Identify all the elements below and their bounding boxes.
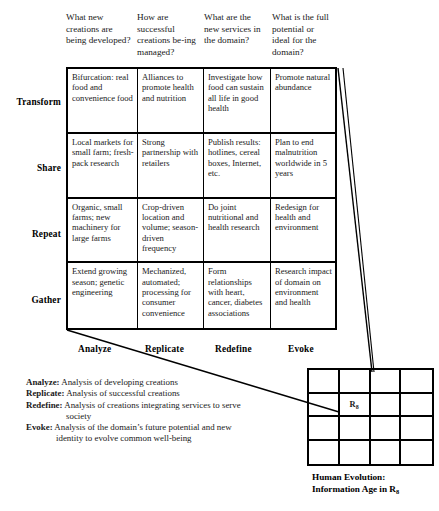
column-header-redefine: What are the new services in the domain? (204, 12, 272, 58)
legend-item-redefine: Redefine: Analysis of creations integrat… (26, 400, 304, 423)
legend-term-redefine: Redefine: (26, 400, 62, 410)
diagram-page: What new creations are being developed? … (0, 0, 439, 511)
small-grid-caption: Human Evolution: Information Age in R8 (312, 471, 439, 496)
small-grid-cell (401, 417, 432, 439)
matrix-cell: Do joint nutritional and health research (204, 199, 271, 262)
small-evolution-grid: R8 (307, 368, 434, 466)
table-row: Local markets for small farm; fresh-pack… (68, 134, 335, 199)
matrix-cell: Strong partnership with retailers (138, 134, 204, 197)
axis-label-redefine: Redefine (215, 344, 252, 354)
small-grid-cell (309, 370, 340, 392)
column-header-evoke: What is the full potential or ideal for … (272, 12, 338, 58)
legend-block: Analyze: Analysis of developing creation… (26, 377, 304, 445)
small-grid-cell (309, 417, 340, 439)
small-grid-cell (371, 370, 402, 392)
small-grid-row (309, 441, 432, 465)
row-label-share: Share (0, 163, 61, 173)
axis-label-analyze: Analyze (78, 344, 111, 354)
matrix-cell: Extend growing season; genetic engineeri… (68, 263, 138, 328)
matrix-cell: Local markets for small farm; fresh-pack… (68, 134, 138, 197)
small-grid-caption-line2: Information Age in R8 (312, 483, 439, 496)
small-grid-cell (401, 441, 432, 465)
small-grid-cell-marked: R8 (340, 394, 371, 416)
matrix-cell: Investigate how food can sustain all lif… (204, 69, 271, 132)
legend-text-evoke: Analysis of the domain’s future potentia… (54, 422, 231, 432)
small-grid-cell (371, 394, 402, 416)
legend-text-redefine: Analysis of creations integrating servic… (64, 400, 240, 410)
matrix-cell: Redesign for health and environment (271, 199, 335, 262)
matrix-cell: Form relationships with heart, cancer, d… (204, 263, 271, 328)
legend-item-analyze: Analyze: Analysis of developing creation… (26, 377, 304, 388)
connector-line-top-right (338, 68, 372, 372)
matrix-cell: Bifurcation: real food and convenience f… (68, 69, 138, 132)
row-label-repeat: Repeat (0, 229, 61, 239)
column-header-row: What new creations are being developed? … (66, 12, 338, 58)
small-grid-cell (401, 370, 432, 392)
legend-text-replicate: Analysis of successful creations (66, 388, 180, 398)
table-row: Organic, small farms; new machinery for … (68, 199, 335, 264)
table-row: Extend growing season; genetic engineeri… (68, 263, 335, 328)
small-grid-cell (401, 394, 432, 416)
legend-item-evoke: Evoke: Analysis of the domain’s future p… (26, 422, 304, 445)
small-grid-caption-line1: Human Evolution: (312, 471, 439, 483)
legend-term-replicate: Replicate: (26, 388, 64, 398)
matrix-cell: Research impact of domain on environment… (271, 263, 335, 328)
legend-item-replicate: Replicate: Analysis of successful creati… (26, 388, 304, 399)
small-grid-cell (309, 394, 340, 416)
legend-term-analyze: Analyze: (26, 377, 60, 387)
matrix-cell: Publish results: hotlines, cereal boxes,… (204, 134, 271, 197)
matrix-cell: Mechanized, automated; processing for co… (138, 263, 204, 328)
small-grid-cell (371, 417, 402, 439)
table-row: Bifurcation: real food and convenience f… (68, 69, 335, 134)
small-grid-cell (340, 370, 371, 392)
axis-label-evoke: Evoke (288, 344, 314, 354)
small-grid-cell (371, 441, 402, 465)
legend-term-evoke: Evoke: (26, 422, 53, 432)
row-label-gather: Gather (0, 295, 61, 305)
legend-text-redefine-cont: society (26, 411, 304, 422)
main-matrix: Bifurcation: real food and convenience f… (66, 67, 337, 330)
legend-text-analyze: Analysis of developing creations (61, 377, 178, 387)
small-grid-cell (340, 441, 371, 465)
matrix-cell: Promote natural abundance (271, 69, 335, 132)
small-grid-cell (340, 417, 371, 439)
small-grid-marker-label: R8 (350, 400, 359, 409)
matrix-cell: Alliances to promote health and nutritio… (138, 69, 204, 132)
small-grid-cell (309, 441, 340, 465)
matrix-cell: Plan to end malnutrition worldwide in 5 … (271, 134, 335, 197)
legend-text-evoke-cont: identity to evolve common well-being (26, 433, 304, 444)
axis-label-replicate: Replicate (145, 344, 184, 354)
small-grid-row (309, 417, 432, 441)
column-header-analyze: What new creations are being developed? (66, 12, 137, 58)
row-label-transform: Transform (0, 97, 61, 107)
matrix-cell: Crop-driven location and volume; season-… (138, 199, 204, 262)
small-grid-row: R8 (309, 394, 432, 418)
matrix-cell: Organic, small farms; new machinery for … (68, 199, 138, 262)
small-grid-row (309, 370, 432, 394)
connector-line-top-right-2 (343, 68, 374, 372)
column-header-replicate: How are successful creations be-ing mana… (137, 12, 204, 58)
